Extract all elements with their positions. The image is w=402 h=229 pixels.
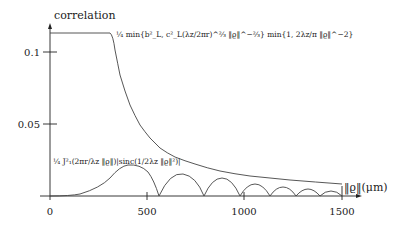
x-axis-title: ‖ϱ‖(μm) (344, 181, 388, 195)
x-tick-label-1500: 1500 (329, 206, 354, 217)
y-tick-label-0.1: 0.1 (24, 47, 40, 58)
x-axis-arrow-icon (356, 194, 362, 198)
y-tick-label-0.05: 0.05 (18, 119, 40, 130)
y-axis-arrow-icon (48, 23, 52, 29)
x-tick-label-1000: 1000 (231, 206, 256, 217)
correlation-chart: 0.1 0.05 0 500 1000 1500 correlation ‖ϱ‖… (0, 0, 402, 229)
x-tick-label-500: 500 (137, 206, 156, 217)
y-axis-title: correlation (54, 9, 116, 22)
x-tick-label-0: 0 (47, 206, 53, 217)
oscillating-formula: ¼ J²₁(2πr/λz ‖ϱ‖)|sinc(1/2λz ‖ϱ‖²)| (53, 157, 181, 166)
upper-bound-formula: ¼ min{b²_L, c²_L(λz/2πr)^⅔ ‖ϱ‖^−⅔} min{1… (116, 30, 353, 39)
